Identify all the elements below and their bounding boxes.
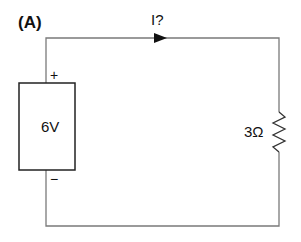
resistor-zigzag-icon [273,112,285,152]
top-wire [46,38,279,112]
resistor-label: 3Ω [244,123,264,140]
panel-label: (A) [18,13,42,32]
current-direction-arrow-icon [154,33,167,43]
negative-terminal-sign: − [50,171,58,187]
current-label: I? [151,11,164,28]
bottom-wire [46,152,279,226]
voltage-source-label: 6V [41,118,59,135]
positive-terminal-sign: + [50,67,58,83]
circuit-diagram: (A) I? 6V + − 3Ω [0,0,301,242]
